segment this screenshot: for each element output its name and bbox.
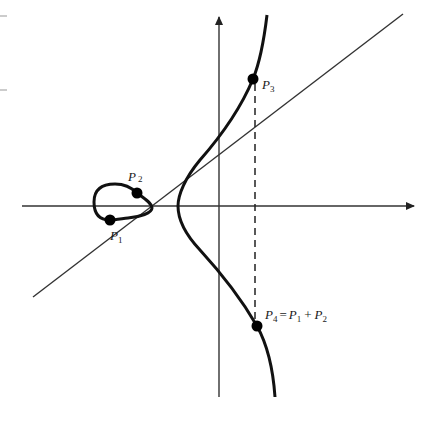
label-p2: P2 bbox=[127, 169, 142, 184]
point-p2 bbox=[132, 188, 143, 199]
elliptic-curve-diagram: P1 P2 P3 P4=P1+P2 bbox=[0, 0, 433, 425]
label-p3: P3 bbox=[261, 77, 275, 94]
point-p3 bbox=[248, 74, 259, 85]
curve-egg-component bbox=[94, 184, 152, 220]
edge-marks bbox=[0, 16, 7, 90]
point-p4 bbox=[252, 321, 263, 332]
point-p1 bbox=[105, 215, 116, 226]
secant-line bbox=[33, 14, 403, 297]
label-p4-sum: P4=P1+P2 bbox=[264, 307, 327, 324]
